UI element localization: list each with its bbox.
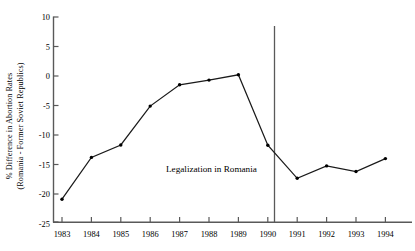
- legalization-annotation-label: Legalization in Romania: [166, 164, 257, 174]
- chart-figure: % Difference in Abortion Rates (Romania …: [0, 0, 415, 251]
- data-point-1994: [384, 157, 387, 160]
- y-axis-ticks: [54, 17, 59, 222]
- plot-area: [0, 0, 415, 251]
- data-point-1986: [149, 104, 152, 107]
- data-point-1991: [296, 177, 299, 180]
- data-point-1990: [266, 144, 269, 147]
- data-point-1992: [325, 164, 328, 167]
- data-point-markers: [60, 73, 387, 201]
- data-point-1985: [119, 143, 122, 146]
- x-axis-ticks: [62, 217, 385, 222]
- data-point-1987: [178, 83, 181, 86]
- data-point-1984: [90, 156, 93, 159]
- data-point-1983: [60, 198, 63, 201]
- data-line-series-1: [62, 75, 385, 199]
- data-point-1989: [237, 73, 240, 76]
- x-tick-label: 1994: [365, 230, 405, 240]
- data-point-1988: [207, 78, 210, 81]
- data-point-1993: [354, 170, 357, 173]
